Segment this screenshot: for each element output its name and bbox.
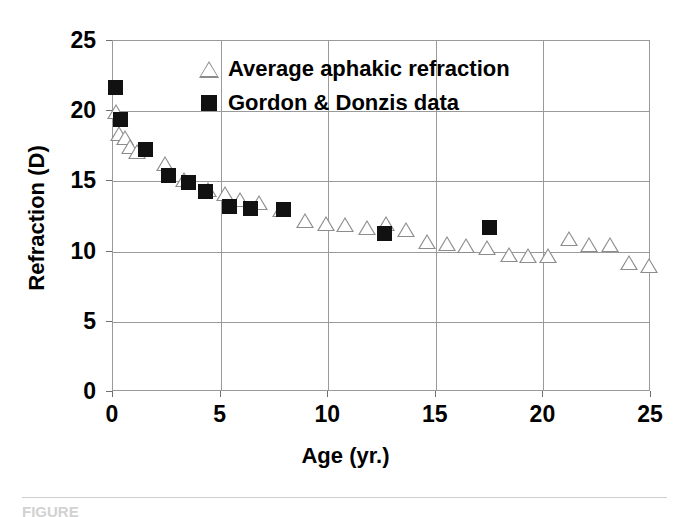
data-point-square xyxy=(161,168,176,183)
data-point-square xyxy=(198,184,213,199)
data-point-triangle xyxy=(457,238,475,253)
figure-caption: FIGURE xyxy=(22,503,667,517)
data-point-triangle xyxy=(438,236,456,251)
y-tick-label: 0 xyxy=(34,380,96,403)
data-point-triangle xyxy=(358,220,376,235)
figure-container: Refraction (D) 0510152025 0510152025 Age… xyxy=(0,0,691,517)
x-tick-mark xyxy=(435,391,436,397)
data-point-triangle xyxy=(640,258,658,273)
y-tick-label: 5 xyxy=(34,310,96,333)
x-axis-title: Age (yr.) xyxy=(0,443,691,469)
data-point-square xyxy=(243,201,258,216)
chart-legend: Average aphakic refraction Gordon & Donz… xyxy=(190,52,610,120)
data-point-square xyxy=(377,226,392,241)
caption-divider xyxy=(22,497,667,498)
x-tick-label: 0 xyxy=(82,403,142,426)
data-point-square xyxy=(222,199,237,214)
x-tick-label: 20 xyxy=(512,403,572,426)
x-tick-label: 15 xyxy=(405,403,465,426)
x-tick-mark xyxy=(112,391,113,397)
y-tick-label: 20 xyxy=(34,99,96,122)
y-tick-label: 15 xyxy=(34,169,96,192)
data-point-square xyxy=(138,142,153,157)
legend-label-average-aphakic-refraction: Average aphakic refraction xyxy=(228,56,510,82)
data-point-triangle xyxy=(620,255,638,270)
data-point-triangle xyxy=(560,231,578,246)
y-tick-label: 25 xyxy=(34,29,96,52)
open-triangle-icon xyxy=(190,61,228,78)
data-point-triangle xyxy=(519,248,537,263)
x-tick-mark xyxy=(542,391,543,397)
x-tick-label: 10 xyxy=(297,403,357,426)
x-tick-mark xyxy=(650,391,651,397)
x-tick-mark xyxy=(327,391,328,397)
y-tick-label: 10 xyxy=(34,240,96,263)
legend-entry-gordon-donzis-data: Gordon & Donzis data xyxy=(190,86,610,120)
data-point-triangle xyxy=(601,237,619,252)
data-point-triangle xyxy=(317,216,335,231)
x-tick-label: 25 xyxy=(620,403,680,426)
data-point-square xyxy=(276,202,291,217)
legend-entry-average-aphakic-refraction: Average aphakic refraction xyxy=(190,52,610,86)
data-point-triangle xyxy=(418,234,436,249)
gridline-horizontal xyxy=(113,252,649,253)
data-point-triangle xyxy=(336,217,354,232)
legend-label-gordon-donzis-data: Gordon & Donzis data xyxy=(228,90,459,116)
data-point-square xyxy=(108,80,123,95)
data-point-triangle xyxy=(296,213,314,228)
data-point-triangle xyxy=(580,237,598,252)
filled-square-icon xyxy=(190,95,228,111)
gridline-horizontal xyxy=(113,322,649,323)
data-point-triangle xyxy=(397,222,415,237)
data-point-triangle xyxy=(500,247,518,262)
data-point-square xyxy=(482,220,497,235)
data-point-triangle xyxy=(539,248,557,263)
data-point-triangle xyxy=(478,240,496,255)
data-point-square xyxy=(113,112,128,127)
data-point-square xyxy=(181,175,196,190)
x-tick-mark xyxy=(220,391,221,397)
x-tick-label: 5 xyxy=(190,403,250,426)
